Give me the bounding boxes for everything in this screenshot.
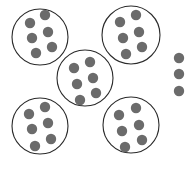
dot bbox=[46, 134, 56, 144]
group-top-right bbox=[102, 6, 160, 64]
dot bbox=[137, 42, 147, 52]
dot bbox=[91, 88, 101, 98]
dot bbox=[131, 103, 141, 113]
dot bbox=[43, 27, 53, 37]
dot bbox=[114, 110, 124, 120]
dot bbox=[25, 18, 35, 28]
dot bbox=[27, 124, 37, 134]
dot bbox=[134, 27, 144, 37]
group-center bbox=[57, 50, 113, 106]
dot bbox=[115, 17, 125, 27]
group-bottom-right bbox=[103, 97, 159, 153]
group-top-left bbox=[12, 9, 68, 65]
dot bbox=[118, 33, 128, 43]
dot bbox=[69, 63, 79, 73]
dot bbox=[72, 79, 82, 89]
dot bbox=[88, 73, 98, 83]
dot bbox=[40, 102, 50, 112]
dot bbox=[121, 49, 131, 59]
dot-groups-diagram bbox=[0, 0, 192, 170]
dot bbox=[134, 120, 144, 130]
dot bbox=[47, 42, 57, 52]
dot bbox=[131, 10, 141, 20]
loose-dot bbox=[174, 53, 184, 63]
dot bbox=[85, 57, 95, 67]
loose-dots bbox=[174, 53, 184, 96]
dot bbox=[75, 95, 85, 105]
dot bbox=[117, 126, 127, 136]
dot bbox=[31, 48, 41, 58]
group-bottom-left bbox=[12, 98, 68, 154]
loose-dot bbox=[174, 69, 184, 79]
loose-dot bbox=[174, 86, 184, 96]
group-circle bbox=[103, 97, 159, 153]
dot bbox=[27, 33, 37, 43]
dot bbox=[137, 135, 147, 145]
group-circle bbox=[57, 50, 113, 106]
dot bbox=[40, 10, 50, 20]
dot bbox=[43, 118, 53, 128]
dot bbox=[24, 109, 34, 119]
dot bbox=[120, 142, 130, 152]
diagram-canvas bbox=[0, 0, 192, 170]
dot bbox=[30, 141, 40, 151]
group-circle bbox=[12, 9, 68, 65]
